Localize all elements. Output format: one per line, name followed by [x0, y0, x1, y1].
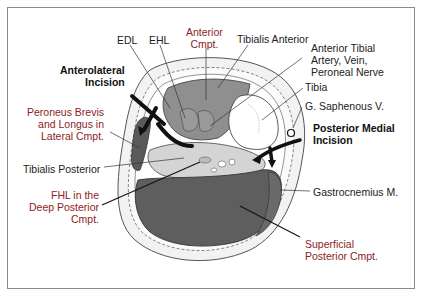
saphenous-vein [288, 130, 295, 137]
label-tibialis-posterior: Tibialis Posterior [23, 163, 100, 175]
label-edl: EDL [117, 34, 137, 46]
label-gastrocnemius: Gastrocnemius M. [313, 186, 398, 198]
label-superficial-posterior: Superficial Posterior Cmpt. [305, 238, 378, 262]
label-peroneus-lateral-compartment: Peroneus Brevis and Longus in Lateral Cm… [27, 106, 104, 142]
label-fhl-deep-posterior: FHL in the Deep Posterior Cmpt. [29, 189, 99, 225]
label-posterior-medial-incision: Posterior Medial Incision [313, 122, 395, 146]
label-ehl: EHL [149, 34, 169, 46]
label-anterior-compartment: Anterior Cmpt. [186, 26, 223, 50]
label-tibia: Tibia [305, 81, 327, 93]
label-g-saphenous-v: G. Saphenous V. [305, 100, 384, 112]
label-anterolateral-incision: Anterolateral Incision [60, 64, 125, 88]
label-anterior-tibial-artery: Anterior Tibial Artery, Vein, Peroneal N… [311, 42, 384, 78]
label-tibialis-anterior: Tibialis Anterior [237, 33, 308, 45]
